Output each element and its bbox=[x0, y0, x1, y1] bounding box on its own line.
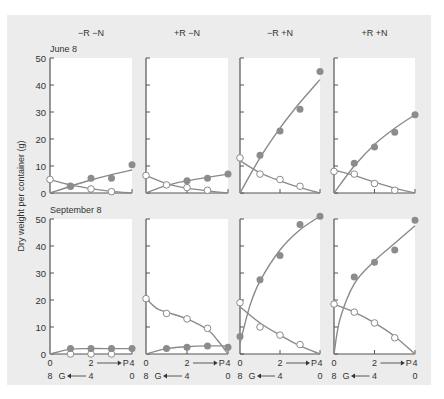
open-marker bbox=[277, 176, 284, 183]
open-marker bbox=[277, 332, 284, 339]
filled-marker bbox=[225, 344, 232, 351]
filled-marker bbox=[277, 252, 284, 259]
filled-marker bbox=[204, 175, 211, 182]
filled-marker bbox=[297, 106, 304, 113]
panel: 02P48G40 bbox=[237, 213, 324, 381]
filled-marker bbox=[277, 127, 284, 134]
filled-marker bbox=[412, 111, 419, 118]
open-marker bbox=[371, 180, 378, 187]
filled-marker bbox=[371, 144, 378, 151]
svg-text:G: G bbox=[154, 371, 161, 381]
row-label-september: September 8 bbox=[50, 205, 102, 215]
y-tick-label: 20 bbox=[35, 134, 46, 145]
open-marker bbox=[297, 183, 304, 190]
y-tick-label: 0 bbox=[41, 188, 46, 199]
y-tick-label: 50 bbox=[35, 214, 46, 225]
open-marker bbox=[257, 171, 264, 178]
arrow-right-icon bbox=[306, 361, 310, 366]
svg-text:2: 2 bbox=[277, 358, 282, 368]
filled-marker bbox=[88, 175, 95, 182]
panel: 0102030405002P48G40 bbox=[35, 214, 135, 382]
x-tick-label-p: 0 bbox=[47, 358, 52, 368]
svg-text:4: 4 bbox=[412, 358, 417, 368]
filled-marker bbox=[237, 333, 244, 340]
panel: 02P48G40 bbox=[143, 219, 232, 381]
x-tick-label-p: 0 bbox=[143, 358, 148, 368]
open-marker bbox=[163, 310, 170, 317]
svg-text:0: 0 bbox=[129, 371, 134, 381]
filled-marker bbox=[88, 345, 95, 352]
filled-marker bbox=[67, 345, 74, 352]
panel bbox=[143, 58, 232, 194]
svg-text:G: G bbox=[342, 371, 349, 381]
filled-marker bbox=[129, 345, 136, 352]
svg-text:0: 0 bbox=[412, 371, 417, 381]
open-marker bbox=[371, 320, 378, 327]
x-tick-label-g: 8 bbox=[237, 371, 242, 381]
open-marker bbox=[351, 171, 358, 178]
open-marker bbox=[184, 316, 191, 323]
x-tick-label-p: 0 bbox=[237, 358, 242, 368]
open-marker bbox=[331, 301, 338, 308]
y-axis-label: Dry weight per container (g) bbox=[16, 140, 26, 251]
svg-text:G: G bbox=[58, 371, 65, 381]
filled-marker bbox=[163, 345, 170, 352]
svg-text:P: P bbox=[406, 358, 412, 368]
svg-text:4: 4 bbox=[277, 371, 282, 381]
filled-marker bbox=[351, 160, 358, 167]
filled-marker bbox=[204, 342, 211, 349]
arrow-left-icon bbox=[67, 374, 71, 379]
open-marker bbox=[237, 155, 244, 162]
filled-marker bbox=[317, 213, 324, 220]
svg-text:P: P bbox=[219, 358, 225, 368]
svg-text:P: P bbox=[123, 358, 129, 368]
y-tick-label: 10 bbox=[35, 161, 46, 172]
svg-text:4: 4 bbox=[88, 371, 93, 381]
arrow-right-icon bbox=[401, 361, 405, 366]
filled-marker bbox=[317, 68, 324, 75]
svg-text:4: 4 bbox=[225, 358, 230, 368]
filled-marker bbox=[391, 247, 398, 254]
svg-text:2: 2 bbox=[184, 358, 189, 368]
open-marker bbox=[143, 172, 150, 179]
svg-text:0: 0 bbox=[225, 371, 230, 381]
filled-marker bbox=[297, 221, 304, 228]
filled-marker bbox=[184, 177, 191, 184]
svg-text:4: 4 bbox=[317, 358, 322, 368]
filled-marker bbox=[108, 345, 115, 352]
svg-text:2: 2 bbox=[372, 358, 377, 368]
x-tick-label-g: 8 bbox=[331, 371, 336, 381]
svg-text:4: 4 bbox=[129, 358, 134, 368]
open-marker bbox=[47, 176, 54, 183]
filled-marker bbox=[371, 259, 378, 266]
svg-text:4: 4 bbox=[372, 371, 377, 381]
arrow-left-icon bbox=[257, 374, 261, 379]
filled-marker bbox=[257, 152, 264, 159]
open-marker bbox=[391, 187, 398, 194]
open-marker bbox=[163, 182, 170, 189]
column-header: +R +N bbox=[361, 28, 387, 38]
y-tick-label: 30 bbox=[35, 268, 46, 279]
filled-marker bbox=[108, 175, 115, 182]
filled-marker bbox=[391, 129, 398, 136]
svg-text:2: 2 bbox=[88, 358, 93, 368]
x-tick-label-p: 0 bbox=[331, 358, 336, 368]
arrow-left-icon bbox=[163, 374, 167, 379]
open-marker bbox=[237, 299, 244, 306]
y-tick-label: 0 bbox=[41, 349, 46, 360]
y-tick-label: 40 bbox=[35, 80, 46, 91]
svg-text:P: P bbox=[311, 358, 317, 368]
filled-marker bbox=[225, 171, 232, 178]
column-header: −R −N bbox=[78, 28, 104, 38]
filled-marker bbox=[257, 276, 264, 283]
y-tick-label: 30 bbox=[35, 107, 46, 118]
open-marker bbox=[391, 335, 398, 342]
column-header: +R −N bbox=[174, 28, 200, 38]
chart-grid: −R −N+R −N−R +N+R +NJune 8September 8Dry… bbox=[0, 0, 444, 399]
open-marker bbox=[143, 295, 150, 302]
svg-text:G: G bbox=[248, 371, 255, 381]
arrow-right-icon bbox=[118, 361, 122, 366]
x-tick-label-g: 8 bbox=[143, 371, 148, 381]
row-label-june: June 8 bbox=[50, 44, 77, 54]
panel bbox=[331, 58, 419, 194]
